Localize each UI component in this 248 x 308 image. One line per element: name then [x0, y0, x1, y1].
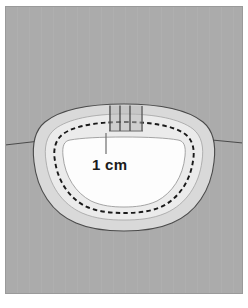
tick-marker-group	[109, 106, 143, 132]
marker-band	[109, 106, 143, 132]
figure-root: 1 cm	[0, 0, 248, 308]
diagram-canvas: 1 cm	[0, 0, 248, 308]
scale-label: 1 cm	[92, 156, 127, 173]
